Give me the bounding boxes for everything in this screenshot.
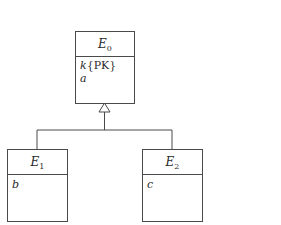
entity-e1-name: E: [31, 155, 40, 169]
entity-e2-attributes: c: [147, 178, 153, 191]
entity-e1: E1 b: [7, 149, 68, 222]
entity-e2-header: E2: [143, 150, 202, 175]
entity-e0: E0 k{PK} a: [75, 31, 135, 104]
entity-e2-subscript: 2: [174, 162, 179, 171]
primary-key-marker: {PK}: [87, 59, 117, 72]
entity-e0-attributes: k{PK} a: [80, 59, 116, 85]
attribute-b: b: [12, 178, 19, 191]
attribute-k: k{PK}: [80, 59, 116, 72]
entity-e0-name: E: [98, 37, 107, 51]
attribute-c: c: [147, 178, 153, 191]
entity-e2-name: E: [166, 155, 175, 169]
entity-e1-header: E1: [8, 150, 67, 175]
generalization-triangle-icon: [99, 103, 110, 112]
attribute-a: a: [80, 72, 116, 85]
entity-e2: E2 c: [142, 149, 203, 222]
entity-e0-subscript: 0: [107, 44, 112, 53]
entity-e1-attributes: b: [12, 178, 19, 191]
entity-e1-subscript: 1: [39, 162, 44, 171]
entity-e0-header: E0: [76, 32, 134, 57]
